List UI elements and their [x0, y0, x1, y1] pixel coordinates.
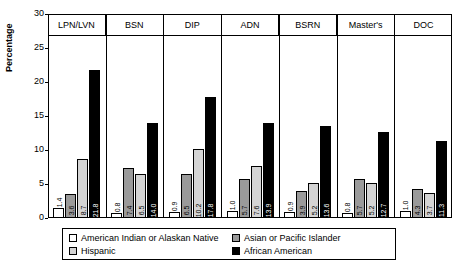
bar-group: 1.04.33.711.3	[394, 14, 452, 218]
bar-value-label: 11.3	[438, 204, 445, 217]
bar-value-label: 0.8	[344, 202, 351, 212]
bar-value-label: 10.2	[195, 204, 202, 218]
legend-label: African American	[244, 246, 312, 256]
bar-value-label: 0.9	[286, 202, 293, 212]
bar-value-label: 13.9	[265, 204, 272, 218]
y-tick-mark	[45, 218, 48, 219]
legend-swatch-icon	[69, 247, 77, 255]
legend-item: Asian or Pacific Islander	[232, 233, 389, 243]
y-tick-label: 15	[18, 111, 44, 120]
bar-group: 0.87.46.514.0	[106, 14, 164, 218]
grouped-bar-chart: Percentage 051015202530 LPN/LVNBSNDIPADN…	[0, 0, 458, 265]
legend-item: African American	[232, 246, 389, 256]
bar: 7.4	[123, 168, 134, 218]
group-separator	[279, 14, 280, 218]
y-tick-label: 30	[18, 9, 44, 18]
bar-value-label: 3.7	[426, 206, 433, 216]
legend-swatch-icon	[232, 247, 240, 255]
legend-label: Asian or Pacific Islander	[244, 233, 341, 243]
group-separator	[163, 14, 164, 218]
bar-value-label: 21.8	[91, 204, 98, 218]
group-separator	[221, 14, 222, 218]
bar-value-label: 13.6	[322, 204, 329, 218]
bar: 5.2	[308, 183, 319, 218]
y-tick-label: 25	[18, 43, 44, 52]
bar-groups: 1.43.68.721.80.87.46.514.00.96.510.217.8…	[48, 14, 452, 218]
bar-value-label: 0.9	[171, 202, 178, 212]
bar: 1.0	[227, 211, 238, 218]
bar-value-label: 14.0	[149, 204, 156, 218]
group-separator	[337, 14, 338, 218]
bar-value-label: 1.0	[229, 201, 236, 211]
bar-group: 0.93.95.213.6	[279, 14, 337, 218]
y-tick-label: 5	[18, 179, 44, 188]
bar: 0.9	[169, 212, 180, 218]
bar-value-label: 1.0	[402, 201, 409, 211]
bar: 3.7	[424, 193, 435, 218]
legend-label: American Indian or Alaskan Native	[81, 233, 219, 243]
group-separator	[394, 14, 395, 218]
bar: 13.9	[263, 123, 274, 218]
bar: 0.8	[342, 213, 353, 218]
bar: 7.6	[251, 166, 262, 218]
bar: 0.9	[284, 212, 295, 218]
bar: 1.4	[53, 208, 64, 218]
bar: 12.7	[378, 132, 389, 218]
bar-value-label: 8.7	[79, 206, 86, 216]
bar-value-label: 12.7	[380, 204, 387, 218]
bar-group: 1.05.77.613.9	[221, 14, 279, 218]
legend-item: American Indian or Alaskan Native	[69, 233, 226, 243]
bar: 1.0	[400, 211, 411, 218]
bar-value-label: 5.2	[368, 206, 375, 216]
legend-label: Hispanic	[81, 246, 116, 256]
bar: 5.7	[239, 179, 250, 218]
bar: 13.6	[320, 126, 331, 218]
bar: 0.8	[111, 213, 122, 218]
bar-value-label: 7.6	[253, 206, 260, 216]
bar-group: 0.85.75.212.7	[337, 14, 395, 218]
bar: 21.8	[89, 70, 100, 218]
bar: 10.2	[193, 149, 204, 218]
bar-value-label: 3.9	[298, 206, 305, 216]
bar-group: 1.43.68.721.8	[48, 14, 106, 218]
bar-value-label: 4.3	[414, 206, 421, 216]
bar: 3.9	[296, 191, 307, 218]
legend-swatch-icon	[69, 234, 77, 242]
bar-value-label: 0.8	[113, 202, 120, 212]
y-tick-label: 10	[18, 145, 44, 154]
y-tick-label: 20	[18, 77, 44, 86]
chart-legend: American Indian or Alaskan NativeAsian o…	[62, 228, 396, 260]
bar-value-label: 7.4	[125, 206, 132, 216]
y-tick-label: 0	[18, 213, 44, 222]
bar: 3.6	[65, 194, 76, 218]
legend-swatch-icon	[232, 234, 240, 242]
bar-value-label: 5.7	[241, 206, 248, 216]
bar: 5.2	[366, 183, 377, 218]
bar: 11.3	[436, 141, 447, 218]
group-separator	[106, 14, 107, 218]
bar: 17.8	[205, 97, 216, 218]
bar-group: 0.96.510.217.8	[163, 14, 221, 218]
legend-item: Hispanic	[69, 246, 226, 256]
bar-value-label: 5.2	[310, 206, 317, 216]
bar-value-label: 5.7	[356, 206, 363, 216]
bar-value-label: 17.8	[207, 204, 214, 218]
bar-value-label: 6.5	[183, 206, 190, 216]
bar: 4.3	[412, 189, 423, 218]
bar: 8.7	[77, 159, 88, 218]
bar-value-label: 6.5	[137, 206, 144, 216]
y-axis-ticks: 051015202530	[8, 0, 44, 265]
bar-value-label: 1.4	[55, 198, 62, 208]
bar: 6.5	[181, 174, 192, 218]
bar: 14.0	[147, 123, 158, 218]
bar: 5.7	[354, 179, 365, 218]
bar-value-label: 3.6	[67, 206, 74, 216]
bar: 6.5	[135, 174, 146, 218]
